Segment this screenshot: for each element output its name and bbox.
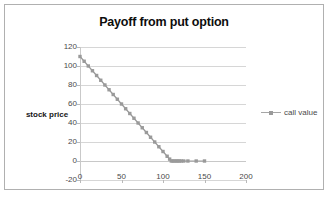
series-line <box>80 57 205 162</box>
data-point-marker <box>195 159 198 162</box>
x-axis-tick-labels: 050100150200 <box>80 172 250 184</box>
data-point-marker <box>128 112 131 115</box>
legend-label-call-value: call value <box>284 108 317 117</box>
data-point-marker <box>95 74 98 77</box>
data-point-marker <box>149 136 152 139</box>
y-axis-tick-labels: -20020406080100120 <box>53 47 77 180</box>
data-point-marker <box>103 83 106 86</box>
y-tick-label-100: 100 <box>64 61 77 70</box>
y-tick-label-40: 40 <box>68 118 77 127</box>
y-tick-label-20: 20 <box>68 137 77 146</box>
data-point-marker <box>120 102 123 105</box>
data-point-marker <box>136 121 139 124</box>
chart-title: Payoff from put option <box>5 15 323 29</box>
x-tick-label-50: 50 <box>110 172 134 181</box>
data-point-marker <box>87 64 90 67</box>
data-point-marker <box>78 55 81 58</box>
data-point-marker <box>161 150 164 153</box>
data-point-marker <box>141 126 144 129</box>
data-point-marker <box>145 131 148 134</box>
y-tick-label-80: 80 <box>68 80 77 89</box>
legend-swatch-call-value <box>261 108 281 117</box>
x-tick-label-200: 200 <box>234 172 258 181</box>
x-tick-label-150: 150 <box>193 172 217 181</box>
data-point-marker <box>203 159 206 162</box>
plot-area <box>80 47 246 180</box>
series-call-value <box>80 47 246 180</box>
x-tick-label-100: 100 <box>151 172 175 181</box>
data-point-marker <box>153 140 156 143</box>
y-tick-label-120: 120 <box>64 42 77 51</box>
legend-marker <box>269 111 273 115</box>
data-point-marker <box>112 93 115 96</box>
data-point-marker <box>99 79 102 82</box>
data-point-marker <box>132 117 135 120</box>
x-tick-label-0: 0 <box>68 172 92 181</box>
data-point-marker <box>182 159 185 162</box>
y-tick-label-60: 60 <box>68 99 77 108</box>
data-point-marker <box>82 60 85 63</box>
chart-container: Payoff from put option stock price -2002… <box>4 4 324 190</box>
data-point-marker <box>91 69 94 72</box>
data-point-marker <box>107 88 110 91</box>
data-point-marker <box>186 159 189 162</box>
data-point-marker <box>124 107 127 110</box>
chart-legend: call value <box>261 108 317 117</box>
data-point-marker <box>116 98 119 101</box>
data-point-marker <box>157 145 160 148</box>
